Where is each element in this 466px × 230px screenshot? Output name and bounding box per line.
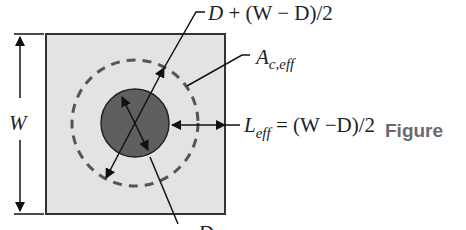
figure-caption: Figure xyxy=(385,120,443,142)
area-label: Ac,eff xyxy=(254,45,296,72)
bottom-label: D xyxy=(197,221,213,230)
diagram-canvas: W D + (W − D)/2 Ac,eff Leff = (W −D)/2 D xyxy=(0,0,466,230)
width-label: W xyxy=(9,111,29,135)
top-label: D + (W − D)/2 xyxy=(207,1,333,25)
length-label: Leff = (W −D)/2 xyxy=(243,113,375,141)
